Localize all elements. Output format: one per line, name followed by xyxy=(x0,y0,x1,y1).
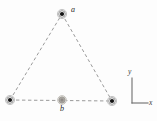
physics-figure-triangle-charges: a b y x xyxy=(0,0,157,121)
label-midpoint-b: b xyxy=(60,105,64,113)
charge-marker-bottom-right xyxy=(107,96,116,105)
dashed-edge-right xyxy=(62,14,112,101)
figure-canvas xyxy=(0,0,157,121)
triangle-dashed-edges xyxy=(10,14,112,101)
label-axis-y: y xyxy=(128,68,131,76)
charge-marker-bottom-left xyxy=(5,95,14,104)
charge-marker-a-top xyxy=(57,9,66,18)
label-vertex-a: a xyxy=(71,6,75,14)
dashed-edge-left xyxy=(10,14,62,100)
coordinate-axes xyxy=(132,78,148,103)
label-axis-x: x xyxy=(149,99,152,107)
